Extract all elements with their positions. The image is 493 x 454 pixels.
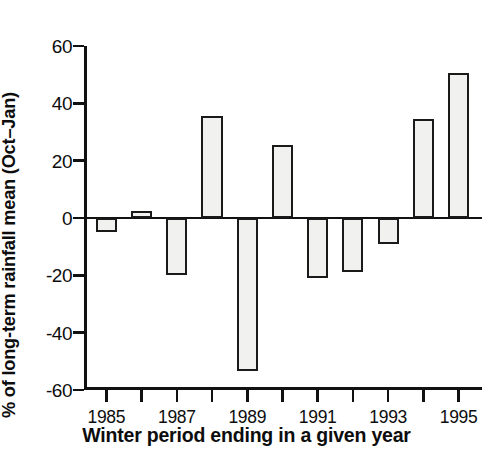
y-axis-title: % of long-term rainfall mean (Oct–Jan) [0, 92, 18, 418]
x-axis-tick-mark [422, 390, 425, 402]
x-axis-tick-mark [281, 390, 284, 402]
x-axis-tick-mark [387, 390, 390, 402]
y-axis-tick-mark [73, 389, 84, 392]
y-axis-tick-label: 20 [26, 151, 72, 170]
x-axis-tick-mark [246, 390, 249, 402]
y-axis-tick-mark [73, 331, 84, 334]
y-axis-tick-labels: 6040200-20-40-60 [26, 0, 72, 454]
bar [96, 218, 117, 232]
y-axis-tick-label: 0 [26, 209, 72, 228]
bar [131, 211, 152, 218]
y-axis-tick-mark [73, 102, 84, 105]
bar [166, 218, 187, 275]
bar [413, 119, 434, 218]
x-axis-tick-mark [352, 390, 355, 402]
x-axis-tick-mark [457, 390, 460, 402]
x-axis-tick-mark [211, 390, 214, 402]
y-axis-tick-mark [73, 217, 84, 220]
plot-area: 198519871989199119931995 [84, 46, 482, 390]
x-axis-tick-mark [176, 390, 179, 402]
y-axis-tick-mark [73, 45, 84, 48]
bar [272, 145, 293, 218]
y-axis-tick-label: 60 [26, 37, 72, 56]
x-axis-tick-mark [140, 390, 143, 402]
x-axis-tick-mark [105, 390, 108, 402]
bar [237, 218, 258, 371]
bar [342, 218, 363, 272]
y-axis-tick-mark [73, 159, 84, 162]
bar-chart-figure: % of long-term rainfall mean (Oct–Jan) 6… [0, 0, 493, 454]
y-axis-tick-label: -40 [26, 323, 72, 342]
bar [448, 73, 469, 218]
x-axis-title: Winter period ending in a given year [0, 424, 493, 447]
y-axis-tick-label: 40 [26, 94, 72, 113]
bar [307, 218, 328, 278]
y-axis-tick-label: -60 [26, 381, 72, 400]
bar [378, 218, 399, 244]
y-axis-tick-mark [73, 274, 84, 277]
x-axis-tick-mark [316, 390, 319, 402]
bar [201, 116, 222, 218]
y-axis-tick-label: -20 [26, 266, 72, 285]
